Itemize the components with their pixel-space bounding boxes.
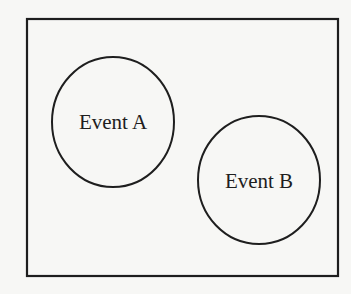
event-a-label: Event A: [79, 110, 148, 134]
venn-diagram: Event A Event B: [0, 0, 351, 294]
event-b-label: Event B: [225, 169, 293, 193]
sample-space-rectangle: [27, 19, 338, 276]
